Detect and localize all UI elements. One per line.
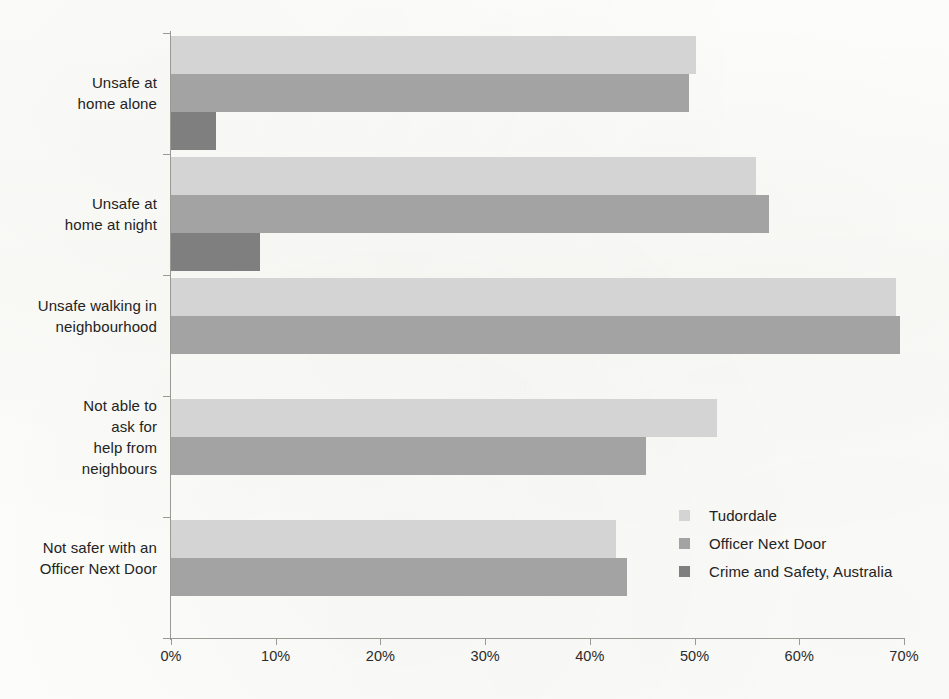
y-axis-tick <box>163 396 171 397</box>
x-axis-line <box>170 638 904 639</box>
horizontal-bar-chart: Unsafe athome aloneUnsafe athome at nigh… <box>0 0 949 699</box>
y-axis-category-label: Not able toask forhelp fromneighbours <box>0 395 157 479</box>
legend-item-label: Crime and Safety, Australia <box>709 563 892 580</box>
bar <box>171 112 216 150</box>
bar <box>171 157 756 195</box>
x-axis-tick-label: 20% <box>350 648 410 664</box>
x-axis-tick-label: 70% <box>874 648 934 664</box>
y-axis-category-label: Unsafe walking inneighbourhood <box>0 295 157 337</box>
y-axis-tick <box>163 517 171 518</box>
x-axis-tick <box>904 638 905 645</box>
x-axis-tick <box>380 638 381 645</box>
y-axis-category-label: Unsafe athome at night <box>0 193 157 235</box>
x-axis-tick <box>695 638 696 645</box>
bar <box>171 36 696 74</box>
legend-swatch-icon <box>679 538 690 549</box>
bar <box>171 399 717 437</box>
x-axis-tick-label: 10% <box>246 648 306 664</box>
x-axis-tick <box>276 638 277 645</box>
bar <box>171 195 769 233</box>
bar <box>171 74 689 112</box>
x-axis-tick-label: 60% <box>769 648 829 664</box>
y-axis-category-label: Unsafe athome alone <box>0 72 157 114</box>
bar <box>171 233 260 271</box>
legend-item-label: Tudordale <box>709 507 777 524</box>
y-axis-category-label: Not safer with anOfficer Next Door <box>0 537 157 579</box>
legend-item-label: Officer Next Door <box>709 535 826 552</box>
bar <box>171 558 627 596</box>
bar <box>171 437 646 475</box>
x-axis-tick-label: 0% <box>141 648 201 664</box>
bar <box>171 520 616 558</box>
x-axis-tick <box>485 638 486 645</box>
legend-swatch-icon <box>679 566 690 577</box>
x-axis-tick <box>171 638 172 645</box>
legend-item[interactable]: Officer Next Door <box>679 529 892 557</box>
x-axis-tick-label: 50% <box>665 648 725 664</box>
x-axis-tick <box>799 638 800 645</box>
y-axis-tick <box>163 275 171 276</box>
legend-item[interactable]: Crime and Safety, Australia <box>679 557 892 585</box>
legend-item[interactable]: Tudordale <box>679 501 892 529</box>
chart-legend: Tudordale Officer Next Door Crime and Sa… <box>679 501 892 585</box>
x-axis-tick-label: 40% <box>560 648 620 664</box>
bar <box>171 278 896 316</box>
y-axis-tick <box>163 154 171 155</box>
bar <box>171 316 900 354</box>
legend-swatch-icon <box>679 510 690 521</box>
x-axis-tick-label: 30% <box>455 648 515 664</box>
y-axis-tick <box>163 638 171 639</box>
y-axis-tick <box>163 33 171 34</box>
x-axis-tick <box>590 638 591 645</box>
